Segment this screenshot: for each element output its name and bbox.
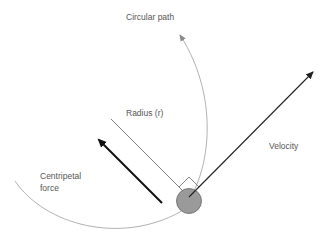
circular-path-label: Circular path [126, 12, 174, 23]
velocity-label: Velocity [269, 141, 298, 152]
centripetal-force-label-line2: force [40, 183, 59, 194]
centripetal-force-diagram: Circular path Radius (r) Velocity Centri… [0, 0, 326, 246]
diagram-canvas [0, 0, 326, 246]
ball [177, 189, 202, 214]
radius-line [111, 119, 189, 197]
radius-label: Radius (r) [126, 108, 163, 119]
centripetal-force-arrow [99, 140, 162, 203]
centripetal-force-label-line1: Centripetal [40, 171, 81, 182]
velocity-arrow [189, 72, 313, 197]
